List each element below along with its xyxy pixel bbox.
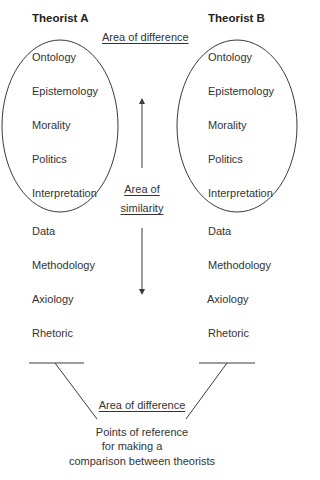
theorist-a-item-epistemology: Epistemology — [32, 85, 98, 98]
caption-line1: Points of reference — [72, 426, 212, 439]
right-diagonal-line — [186, 363, 227, 419]
caption-line3: comparison between theorists — [62, 455, 222, 468]
theorist-b-item-politics: Politics — [208, 153, 243, 166]
theorist-a-item-axiology: Axiology — [32, 293, 74, 306]
caption-line2: for making a — [72, 440, 192, 453]
theorist-a-item-methodology: Methodology — [32, 259, 95, 272]
theorist-b-item-rhetoric: Rhetoric — [208, 327, 249, 340]
theorist-b-item-epistemology: Epistemology — [208, 85, 274, 98]
theorist-a-item-morality: Morality — [32, 119, 71, 132]
bottom-area-of-difference-label: Area of difference — [92, 399, 192, 412]
theorist-b-item-interpretation: Interpretation — [208, 187, 273, 200]
area-of-similarity-line1: Area of — [112, 183, 172, 196]
theorist-b-title: Theorist B — [208, 12, 265, 25]
top-area-of-difference-label: Area of difference — [102, 31, 189, 44]
area-of-similarity-line2: similarity — [112, 202, 172, 215]
theorist-b-item-axiology: Axiology — [207, 293, 249, 306]
theorist-a-item-data: Data — [32, 225, 55, 238]
theorist-a-item-ontology: Ontology — [32, 51, 76, 64]
left-diagonal-line — [55, 363, 97, 419]
theorist-a-title: Theorist A — [32, 12, 88, 25]
theorist-b-item-morality: Morality — [208, 119, 247, 132]
theorist-b-item-methodology: Methodology — [208, 259, 271, 272]
theorist-b-item-ontology: Ontology — [208, 51, 252, 64]
theorist-b-item-data: Data — [208, 225, 231, 238]
theorist-a-item-politics: Politics — [32, 153, 67, 166]
theorist-a-item-rhetoric: Rhetoric — [32, 327, 73, 340]
theorist-a-item-interpretation: Interpretation — [32, 187, 97, 200]
